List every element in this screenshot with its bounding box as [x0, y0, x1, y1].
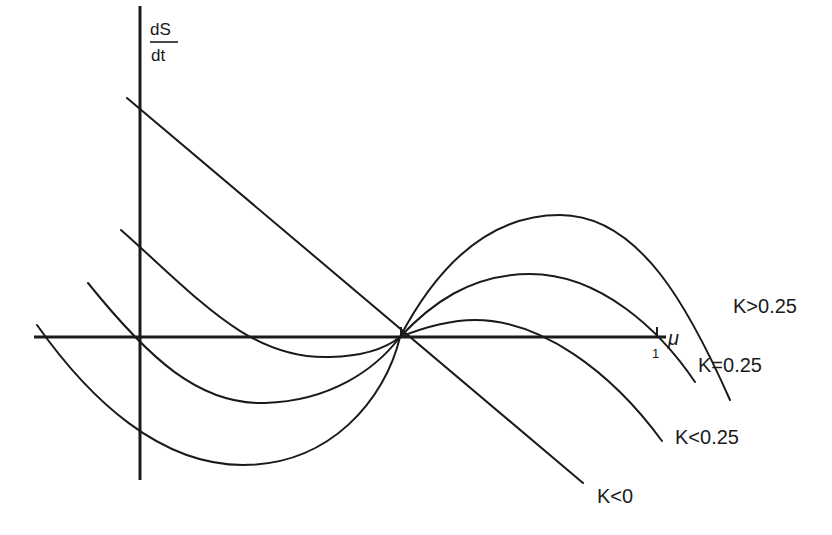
label-k-lt-025: K<0.25	[675, 426, 739, 448]
diagram-canvas: dS dt μ 1 K>0.25 K=0.25 K<0.25 K<0	[0, 0, 832, 535]
curve-k-eq-025	[88, 274, 695, 403]
curve-k-gt-025	[121, 215, 730, 400]
x-tick-label: 1	[652, 346, 659, 361]
label-k-lt-0: K<0	[597, 485, 633, 507]
curve-k-lt-025	[37, 320, 662, 465]
label-k-eq-025: K=0.25	[698, 354, 762, 376]
label-k-gt-025: K>0.25	[733, 295, 797, 317]
curve-k-lt-0	[127, 98, 583, 483]
x-axis-label: μ	[667, 327, 679, 349]
y-axis-label-denominator: dt	[151, 46, 165, 65]
phase-diagram: dS dt μ 1 K>0.25 K=0.25 K<0.25 K<0	[0, 0, 832, 535]
y-axis-label-numerator: dS	[150, 20, 171, 39]
